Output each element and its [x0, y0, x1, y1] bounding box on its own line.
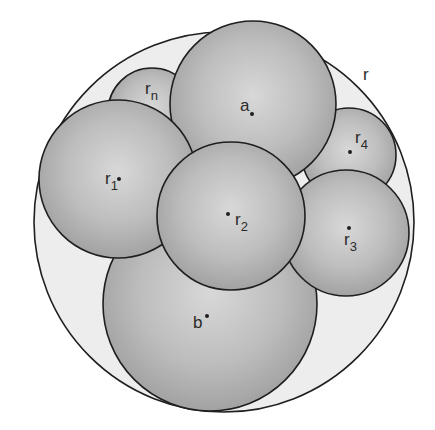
label-subscript-r1: 1: [111, 178, 118, 193]
label-subscript-rn: n: [151, 88, 158, 103]
label-b: b: [193, 313, 202, 332]
label-subscript-r3: 3: [350, 239, 357, 254]
center-dot-r2: [226, 212, 230, 216]
center-dot-a: [250, 112, 254, 116]
label-r: r: [363, 65, 369, 84]
center-dot-b: [205, 314, 209, 318]
nested-circles-diagram: r rnr4abr1r3r2: [0, 0, 435, 430]
label-a: a: [240, 96, 250, 115]
sphere-r2: [157, 142, 305, 290]
label-subscript-r2: 2: [241, 219, 248, 234]
label-subscript-r4: 4: [361, 137, 368, 152]
circle-r2: r2: [157, 142, 305, 290]
center-dot-r4: [348, 150, 352, 154]
